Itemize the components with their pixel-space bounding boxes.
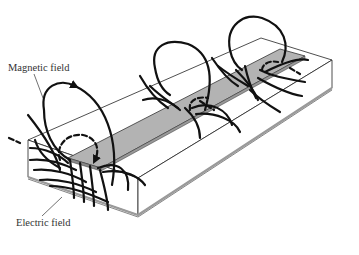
label-electric-field: Electric field — [16, 197, 71, 228]
electric-field-label: Electric field — [16, 217, 71, 228]
magnetic-field-label: Magnetic field — [8, 62, 70, 73]
microstrip-field-diagram: Magnetic field Electric field — [0, 0, 359, 255]
label-magnetic-field: Magnetic field — [8, 62, 70, 98]
